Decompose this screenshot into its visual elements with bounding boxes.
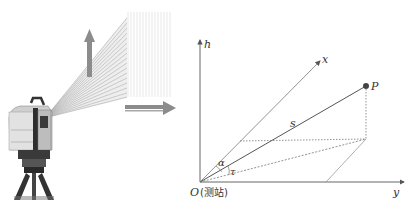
- horizontal-projection: [240, 139, 366, 141]
- point-p-label: P: [370, 80, 379, 93]
- laser-scanner-illustration: [9, 12, 176, 200]
- coordinate-diagram: h x y P s α τ O (测站): [190, 38, 404, 199]
- angle-tau-label: τ: [230, 166, 236, 177]
- angle-alpha-label: α: [218, 157, 225, 168]
- origin-label: O: [190, 186, 199, 199]
- horizontal-distance-line: [200, 139, 366, 182]
- y-projection-line: [326, 139, 366, 182]
- scanner-device: [9, 98, 54, 200]
- slope-line-s: [200, 86, 366, 182]
- distance-s-label: s: [290, 117, 296, 130]
- scanner-coordinate-diagram: h x y P s α τ O (测站): [0, 0, 411, 205]
- x-axis-label: x: [322, 53, 329, 66]
- scan-curtain: [128, 12, 170, 97]
- h-axis-label: h: [204, 38, 211, 51]
- point-p: [363, 83, 369, 89]
- y-axis-label: y: [392, 186, 400, 199]
- origin-station-label: (测站): [200, 186, 228, 198]
- horizontal-scan-arrow: [125, 101, 176, 115]
